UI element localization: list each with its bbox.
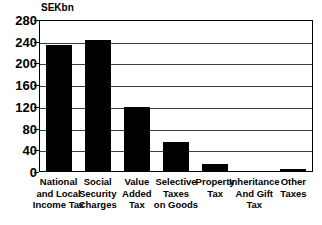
x-axis-category-label-line: on Goods <box>149 199 202 211</box>
bar-chart: SEKbn 04080120160200240280 Nationaland L… <box>0 0 322 225</box>
gridline <box>40 64 312 65</box>
y-axis-tick-label: 280 <box>1 14 37 27</box>
gridline <box>40 108 312 109</box>
x-axis-category-label-line: Tax <box>228 199 281 211</box>
plot-area <box>39 20 313 172</box>
y-axis-unit-label: SEKbn <box>41 2 74 13</box>
x-axis-category-label-line: Other <box>267 176 320 188</box>
gridline <box>40 86 312 87</box>
x-axis-category-labels: Nationaland LocalIncome TaxSocialSecurit… <box>39 176 313 222</box>
y-axis-tick-label: 120 <box>1 100 37 113</box>
y-axis-tick-label: 200 <box>1 57 37 70</box>
x-axis-category-label-line: Taxes <box>267 188 320 200</box>
y-axis-tick-label: 240 <box>1 35 37 48</box>
gridline <box>40 43 312 44</box>
gridline <box>40 130 312 131</box>
x-axis-category-label: OtherTaxes <box>267 176 320 199</box>
y-axis-tick-label: 160 <box>1 79 37 92</box>
gridline <box>40 151 312 152</box>
y-axis-tick-label: 80 <box>1 122 37 135</box>
y-axis-tick-label: 40 <box>1 144 37 157</box>
